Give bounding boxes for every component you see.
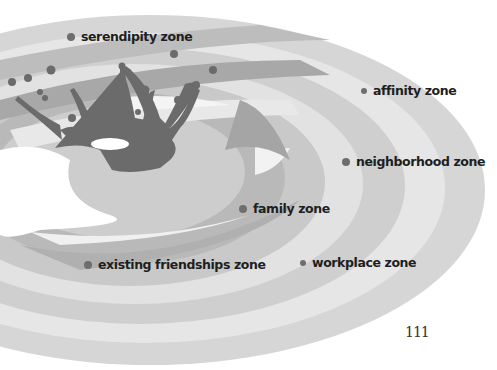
ripple-illustration <box>0 0 497 370</box>
zone-dot-icon <box>84 261 92 269</box>
zone-label-text: existing friendships zone <box>98 257 266 272</box>
zone-label-text: family zone <box>253 201 330 216</box>
zone-dot-icon <box>239 205 247 213</box>
zone-dot-icon <box>361 88 367 94</box>
zone-label-text: workplace zone <box>312 255 416 270</box>
ripple-rings <box>0 15 485 365</box>
zone-label-neighborhood: neighborhood zone <box>342 154 485 169</box>
zone-label-existing-friendships: existing friendships zone <box>84 257 266 272</box>
zone-label-workplace: workplace zone <box>300 255 416 270</box>
zone-dot-icon <box>300 260 306 266</box>
page-number: 111 <box>405 324 429 340</box>
zone-label-text: serendipity zone <box>81 29 192 44</box>
zone-label-text: neighborhood zone <box>356 154 485 169</box>
zone-label-text: affinity zone <box>373 83 456 98</box>
zone-label-affinity: affinity zone <box>361 83 456 98</box>
zone-dot-icon <box>342 158 350 166</box>
zone-dot-icon <box>67 33 75 41</box>
zone-label-family: family zone <box>239 201 330 216</box>
splash-center-hole <box>91 138 129 150</box>
zone-label-serendipity: serendipity zone <box>67 29 192 44</box>
